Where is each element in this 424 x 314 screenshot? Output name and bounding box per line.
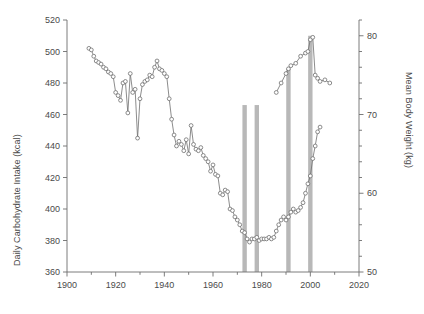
x-axis-tick-label: 2020	[349, 280, 369, 290]
data-point-marker	[184, 138, 188, 142]
y-axis-right-tick-label: 70	[367, 110, 377, 120]
data-point-marker	[318, 80, 322, 84]
axes-group	[63, 20, 364, 277]
y-axis-left-tick-label: 360	[45, 267, 60, 277]
data-point-marker	[294, 61, 298, 65]
data-point-marker	[313, 144, 317, 148]
y-axis-left-tick-label: 420	[45, 173, 60, 183]
chart-container: 3603804004204404604805005205060708019001…	[0, 0, 424, 314]
data-point-marker	[306, 182, 310, 186]
data-point-marker	[274, 229, 278, 233]
data-point-marker	[170, 117, 174, 121]
data-point-marker	[216, 174, 220, 178]
data-point-marker	[145, 78, 149, 82]
y-axis-left-tick-label: 500	[45, 47, 60, 57]
data-point-marker	[279, 81, 283, 85]
data-point-marker	[192, 143, 196, 147]
y-axis-left-tick-label: 520	[45, 15, 60, 25]
data-point-marker	[133, 87, 137, 91]
x-axis-tick-label: 1920	[106, 280, 126, 290]
y-axis-right-title: Mean Body Weight (kg)	[404, 72, 414, 168]
data-point-marker	[89, 48, 93, 52]
data-point-marker	[318, 125, 322, 129]
data-point-marker	[187, 152, 191, 156]
data-point-marker	[92, 54, 96, 58]
data-point-marker	[231, 209, 235, 213]
data-point-marker	[119, 98, 123, 102]
y-axis-left-tick-label: 480	[45, 78, 60, 88]
vertical-marker-bar	[286, 69, 290, 272]
y-axis-left-tick-label: 460	[45, 110, 60, 120]
y-axis-left-tick-label: 380	[45, 236, 60, 246]
data-point-marker	[167, 97, 171, 101]
chart-plot-svg: 3603804004204404604805005205060708019001…	[0, 0, 424, 314]
data-point-marker	[221, 193, 225, 197]
data-point-marker	[199, 146, 203, 150]
data-point-marker	[226, 190, 230, 194]
y-axis-right-tick-label: 60	[367, 188, 377, 198]
data-point-marker	[153, 65, 157, 69]
y-axis-left-title: Daily Carbohydrate Intake (kcal)	[12, 134, 22, 266]
data-point-marker	[150, 75, 154, 79]
data-point-marker	[311, 157, 315, 161]
data-point-marker	[175, 144, 179, 148]
series-line	[276, 37, 330, 92]
data-point-marker	[243, 231, 247, 235]
data-point-marker	[206, 160, 210, 164]
data-point-marker	[323, 78, 327, 82]
data-point-marker	[277, 223, 281, 227]
data-point-marker	[306, 50, 310, 54]
data-point-marker	[124, 80, 128, 84]
vertical-marker-bar	[255, 105, 259, 272]
data-point-marker	[301, 201, 305, 205]
y-axis-left-tick-label: 400	[45, 204, 60, 214]
data-point-marker	[172, 133, 176, 137]
data-point-marker	[289, 64, 293, 68]
vertical-marker-bar	[308, 36, 312, 272]
data-point-marker	[238, 223, 242, 227]
data-point-marker	[235, 218, 239, 222]
data-point-marker	[311, 35, 315, 39]
data-point-marker	[284, 72, 288, 76]
data-point-marker	[304, 191, 308, 195]
data-point-marker	[126, 111, 130, 115]
data-point-marker	[316, 130, 320, 134]
vertical-bars-group	[242, 36, 312, 272]
data-point-marker	[299, 206, 303, 210]
data-point-marker	[274, 91, 278, 95]
series-line	[89, 48, 320, 242]
data-series-group	[87, 35, 332, 244]
y-axis-right-tick-label: 50	[367, 267, 377, 277]
y-axis-right-tick-label: 80	[367, 31, 377, 41]
data-point-marker	[138, 97, 142, 101]
x-axis-tick-label: 1900	[57, 280, 77, 290]
data-point-marker	[182, 149, 186, 153]
data-point-marker	[209, 169, 213, 173]
data-point-marker	[116, 94, 120, 98]
y-axis-left-tick-label: 440	[45, 141, 60, 151]
data-point-marker	[308, 174, 312, 178]
data-point-marker	[189, 124, 193, 128]
data-point-marker	[299, 54, 303, 58]
x-axis-tick-label: 1980	[252, 280, 272, 290]
x-axis-tick-label: 1940	[154, 280, 174, 290]
data-point-marker	[128, 72, 132, 76]
vertical-marker-bar	[242, 105, 246, 272]
data-point-marker	[136, 136, 140, 140]
data-point-marker	[211, 163, 215, 167]
x-axis-tick-label: 2000	[300, 280, 320, 290]
data-point-marker	[155, 59, 159, 63]
data-point-marker	[287, 215, 291, 219]
data-point-marker	[272, 235, 276, 239]
data-point-marker	[111, 75, 115, 79]
x-axis-tick-label: 1960	[203, 280, 223, 290]
data-point-marker	[328, 81, 332, 85]
data-point-marker	[179, 143, 183, 147]
data-point-marker	[165, 75, 169, 79]
